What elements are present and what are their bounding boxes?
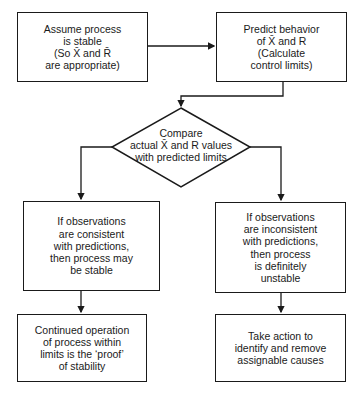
- continued-operation-text: Continued operation of process within li…: [35, 324, 130, 373]
- inconsistent-box: If observations are inconsistent with pr…: [215, 202, 346, 293]
- consistent-box: If observations are consistent with pred…: [23, 201, 160, 291]
- arrow-compare-to-inconsistent: [250, 147, 281, 200]
- arrow-compare-to-consistent: [81, 147, 112, 199]
- take-action-text: Take action to identify and remove assig…: [235, 330, 327, 367]
- assume-stable-text: Assume process is stable (So X̄ and R̄ a…: [44, 23, 122, 72]
- predict-behavior-box: Predict behavior of X̄ and R (Calculate …: [216, 12, 347, 82]
- compare-text: Compare actual X̄ and R values with pred…: [112, 127, 250, 164]
- take-action-box: Take action to identify and remove assig…: [215, 314, 346, 382]
- inconsistent-text: If observations are inconsistent with pr…: [243, 211, 318, 284]
- consistent-text: If observations are consistent with pred…: [50, 215, 133, 276]
- arrow-predict-to-compare: [181, 82, 283, 106]
- continued-operation-box: Continued operation of process within li…: [17, 314, 147, 382]
- predict-behavior-text: Predict behavior of X̄ and R (Calculate …: [244, 23, 320, 72]
- assume-stable-box: Assume process is stable (So X̄ and R̄ a…: [17, 12, 148, 82]
